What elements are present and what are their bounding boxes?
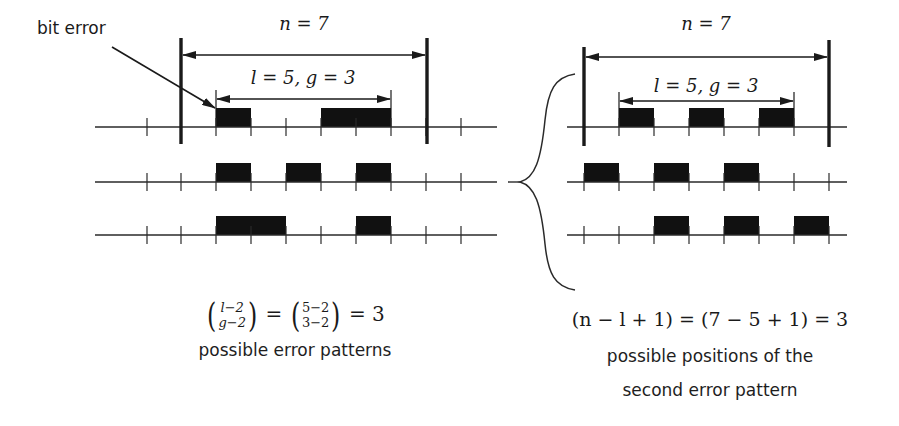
binomial-rhs-bottom: 3−2 [302, 315, 329, 330]
right-panel: n = 7 l = 5, g = 3 [567, 13, 847, 244]
error-block [356, 163, 391, 182]
n-label: n = 7 [279, 13, 329, 34]
right-caption-line1: possible positions of the [560, 346, 860, 366]
lg-label: l = 5, g = 3 [654, 75, 759, 96]
error-block [356, 216, 391, 235]
binomial-lhs-bottom: g−2 [218, 315, 246, 330]
error-row [95, 108, 497, 136]
n-label: n = 7 [681, 13, 731, 34]
error-row [95, 216, 497, 244]
error-row [95, 163, 497, 191]
error-block [724, 163, 759, 182]
lg-label: l = 5, g = 3 [251, 67, 356, 88]
bit-error-pointer-arrow [112, 47, 215, 108]
binomial-rhs-top: 5−2 [302, 300, 329, 315]
error-block [584, 163, 619, 182]
error-block [759, 108, 794, 127]
right-formula: (n − l + 1) = (7 − 5 + 1) = 3 [545, 308, 875, 330]
binomial-lhs: ( l−2g−2 ) [205, 298, 259, 332]
binomial-rhs: ( 5−23−2 ) [289, 298, 343, 332]
error-row [567, 163, 847, 191]
binomial-lhs-top: l−2 [221, 300, 244, 315]
left-caption: possible error patterns [150, 340, 440, 360]
error-block [654, 163, 689, 182]
right-caption-line2: second error pattern [560, 380, 860, 400]
left-formula: ( l−2g−2 ) = ( 5−23−2 ) = 3 [190, 298, 400, 332]
right-error-rows [567, 108, 847, 244]
error-block [216, 108, 251, 127]
error-block [216, 163, 251, 182]
error-block [724, 216, 759, 235]
error-block [286, 163, 321, 182]
error-row [567, 108, 847, 136]
curly-brace [520, 74, 575, 290]
error-block [689, 108, 724, 127]
formula-result: = 3 [349, 302, 385, 326]
left-error-rows [95, 108, 497, 244]
error-row [567, 216, 847, 244]
error-block [619, 108, 654, 127]
bit-error-annotation: bit error [37, 18, 106, 38]
left-panel: bit error n = 7 l = 5, g = 3 [37, 13, 497, 244]
error-block [794, 216, 829, 235]
error-block [654, 216, 689, 235]
